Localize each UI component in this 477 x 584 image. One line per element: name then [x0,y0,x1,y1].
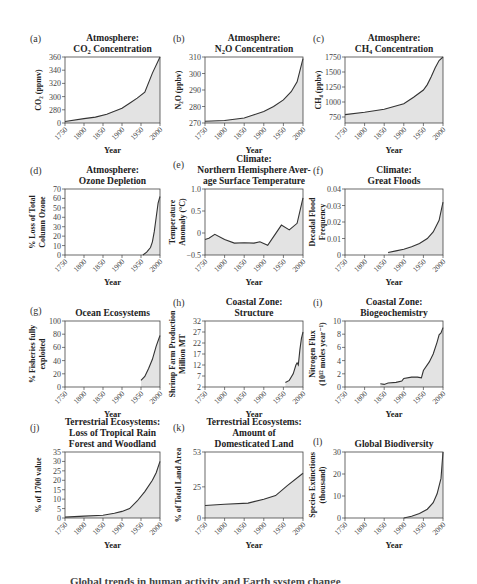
y-tick-label: 0.02 [327,218,341,227]
plot-frame [205,321,303,387]
x-tick-label: 1800 [352,257,369,274]
chart-panel-c: (c)Atmosphere:CH4 Concentration750100012… [313,33,448,155]
chart-title: Northern Hemisphere Aver- [197,165,310,175]
y-tick-label: 4 [337,357,341,366]
x-tick-label: 1900 [109,520,126,537]
x-axis-label: Year [104,540,121,550]
x-tick-label: 2000 [430,125,447,142]
x-axis-label: Year [104,277,121,287]
x-tick-label: 1950 [128,520,145,537]
chart-title: Great Floods [368,176,421,186]
y-axis-label: CO₂ (ppmv) [34,69,43,111]
chart-title: N2O Concentration [215,44,294,55]
y-tick-label: 6 [337,343,341,352]
x-tick-label: 1750 [52,257,69,274]
x-tick-label: 1850 [232,257,249,274]
chart-title: Climate: [376,165,411,175]
chart-title: CO2 Concentration [73,44,152,55]
plot-frame [65,189,160,255]
y-tick-label: 10 [333,492,341,501]
x-tick-label: 2000 [290,257,307,274]
y-axis-label: CH₄ (ppbv) [314,70,323,109]
y-tick-label: 30 [53,223,61,232]
x-tick-label: 1900 [109,389,126,406]
y-axis-label: Nitrogen Flux [308,330,317,378]
y-tick-label: 60 [53,343,61,352]
x-tick-label: 1800 [352,520,369,537]
y-tick-label: 290 [189,86,201,95]
y-axis-label: Million MT [178,333,187,373]
x-tick-label: 1750 [332,520,349,537]
chart-title: Structure [235,308,274,318]
area-fill [380,328,443,387]
y-tick-label: 360 [49,53,61,62]
chart-title: age Surface Temperature [203,176,305,186]
x-tick-label: 1850 [372,125,389,142]
panel-label: (h) [173,297,185,309]
x-tick-label: 2000 [147,125,164,142]
area-fill [205,59,303,123]
x-tick-label: 2000 [147,257,164,274]
y-tick-label: 300 [49,93,61,102]
chart-panel-e: (e)Climate:Northern Hemisphere Aver-age … [168,154,311,287]
y-tick-label: 50 [53,204,61,213]
y-axis-label: % Loss of Total [28,194,37,248]
x-tick-label: 1800 [71,257,88,274]
chart-title: Coastal Zone: [226,297,283,307]
y-tick-label: 1500 [325,68,341,77]
y-axis-label: Species Extinctions [308,452,317,518]
x-tick-label: 2000 [147,389,164,406]
y-tick-label: 20 [53,476,61,485]
y-tick-label: 7 [197,372,201,381]
y-axis-label: Anomaly (°C) [178,198,187,246]
panel-label: (k) [173,422,185,434]
y-tick-label: 20 [53,232,61,241]
x-axis-label: Year [104,145,121,155]
x-tick-label: 1750 [52,389,69,406]
x-tick-label: 2000 [430,257,447,274]
x-tick-label: 1850 [372,389,389,406]
chart-title: Biogeochemistry [360,308,428,318]
y-axis-label: exploited [38,338,47,370]
y-tick-label: 30 [53,457,61,466]
panel-label: (j) [30,422,39,434]
x-tick-label: 1850 [372,520,389,537]
x-tick-label: 1850 [372,257,389,274]
chart-title: Atmosphere: [368,33,421,43]
y-tick-label: 1750 [325,53,341,62]
x-tick-label: 1900 [391,520,408,537]
y-axis-label: Frequency [318,204,327,240]
x-tick-label: 1750 [52,125,69,142]
x-tick-label: 1750 [192,520,209,537]
chart-title: Atmosphere: [86,33,139,43]
x-tick-label: 1750 [332,389,349,406]
y-axis-label: (10¹² moles year⁻¹) [318,322,327,386]
y-tick-label: 8 [337,330,341,339]
y-tick-label: 12 [193,361,201,370]
y-tick-label: 750 [329,113,341,122]
y-axis-label: Shrimp Farm Production [168,310,177,398]
y-tick-label: 80 [53,330,61,339]
figure-caption: Global trends in human activity and Eart… [70,570,410,584]
x-tick-label: 1950 [411,125,428,142]
y-axis-label: N₂O (ppbv) [174,70,183,109]
x-tick-label: 1950 [271,125,288,142]
chart-panel-j: (j)Terrestrial Ecosystems:Loss of Tropic… [30,417,165,550]
chart-panel-h: (h)Coastal Zone:Structure271217222732175… [168,297,308,419]
x-tick-label: 1950 [411,257,428,274]
y-axis-label: Decadal Flood [308,197,317,247]
y-axis-label: (thousand) [318,466,327,503]
x-tick-label: 2000 [147,520,164,537]
area-fill [404,452,443,518]
area-fill [205,198,303,255]
chart-title: Climate: [236,154,271,164]
y-tick-label: 10 [333,317,341,326]
y-tick-label: 310 [189,53,201,62]
chart-panel-f: (f)Climate:Great Floods00.010.020.030.04… [308,165,448,287]
chart-panel-b: (b)Atmosphere:N2O Concentration270280290… [173,33,308,155]
y-tick-label: 17 [193,350,201,359]
x-tick-label: 1900 [109,257,126,274]
y-tick-label: 40 [53,357,61,366]
x-tick-label: 1950 [128,389,145,406]
y-tick-label: 20 [53,370,61,379]
